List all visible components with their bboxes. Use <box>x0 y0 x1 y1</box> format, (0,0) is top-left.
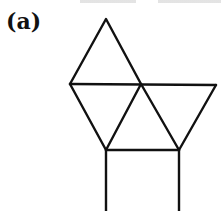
edge-middle-down-left <box>106 84 141 150</box>
edge-middle-down-right <box>141 84 179 150</box>
edge-left-down <box>70 84 106 150</box>
horizontal-edge <box>70 84 216 85</box>
geometric-net-figure <box>0 0 221 211</box>
edge-right-down <box>179 85 216 150</box>
top-triangle <box>70 19 141 84</box>
